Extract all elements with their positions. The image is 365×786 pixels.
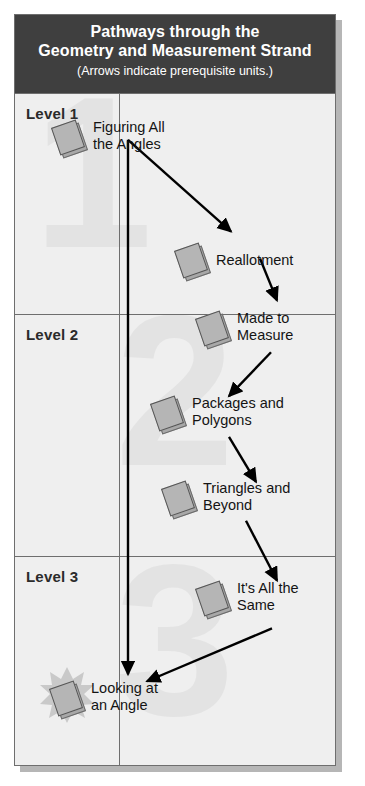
unit-label: Figuring All the Angles — [93, 119, 165, 153]
pathways-diagram-panel: Pathways through the Geometry and Measur… — [14, 14, 336, 766]
book-icon — [199, 584, 226, 614]
book-icon — [199, 314, 226, 344]
header-title-line1: Pathways through the — [15, 22, 335, 41]
unit-label: Triangles and Beyond — [203, 480, 290, 514]
diagram-body: 1 2 3 Level 1 Level 2 Level 3 — [15, 93, 335, 765]
arrow-made-to-packages — [229, 352, 271, 396]
unit-label: Made to Measure — [237, 310, 293, 344]
unit-label: Reallotment — [216, 252, 293, 269]
unit-label: Looking at an Angle — [91, 680, 158, 714]
unit-label: It's All the Same — [237, 580, 299, 614]
header-subtitle: (Arrows indicate prerequisite units.) — [15, 62, 335, 80]
book-icon — [178, 246, 205, 276]
unit-label: Packages and Polygons — [192, 395, 284, 429]
book-icon — [55, 123, 82, 153]
header-title-line2: Geometry and Measurement Strand — [15, 41, 335, 60]
book-icon — [154, 399, 181, 429]
arrow-packages-to-triangles — [229, 437, 256, 482]
diagram-header: Pathways through the Geometry and Measur… — [15, 15, 335, 93]
book-icon — [53, 684, 80, 714]
arrow-same-to-looking — [147, 628, 272, 681]
arrow-figuring-to-reallotment — [128, 140, 231, 232]
arrow-triangles-to-same — [246, 521, 277, 581]
book-icon — [165, 484, 192, 514]
